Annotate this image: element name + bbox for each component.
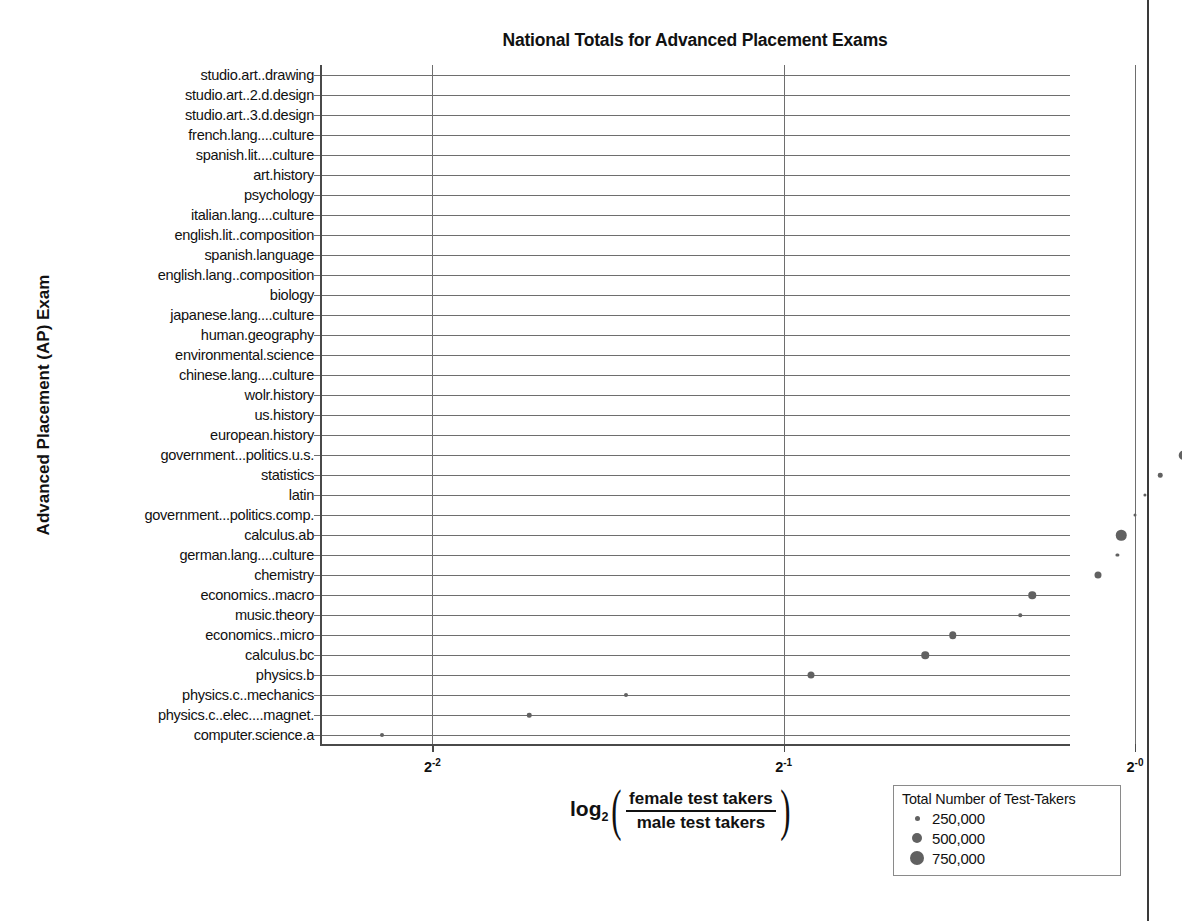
y-axis-label: government...politics.comp. xyxy=(144,507,314,523)
legend-title: Total Number of Test-Takers xyxy=(902,791,1112,807)
data-point xyxy=(922,651,930,659)
data-point xyxy=(1116,553,1119,556)
x-axis-label: 2-2 xyxy=(424,757,441,775)
y-axis-label: european.history xyxy=(210,427,314,443)
left-paren: ( xyxy=(612,788,622,834)
y-axis-label: studio.art..2.d.design xyxy=(185,87,314,103)
ap-exam-scatter-chart: National Totals for Advanced Placement E… xyxy=(0,0,1182,921)
y-axis-label: economics..macro xyxy=(200,587,314,603)
log-label: log2 xyxy=(570,797,608,824)
chart-title: National Totals for Advanced Placement E… xyxy=(320,30,1070,51)
y-axis-label: french.lang....culture xyxy=(188,127,314,143)
y-axis-label: spanish.language xyxy=(204,247,314,263)
gridline-vertical xyxy=(1135,65,1136,745)
y-axis-label: chinese.lang....culture xyxy=(179,367,314,383)
data-point xyxy=(1133,514,1136,517)
data-point xyxy=(1143,493,1146,496)
gridline-vertical xyxy=(784,65,785,745)
y-axis-label: music.theory xyxy=(235,607,314,623)
legend-entry: 750,000 xyxy=(902,848,1112,868)
y-axis-label: calculus.bc xyxy=(245,647,314,663)
legend-entry: 250,000 xyxy=(902,808,1112,828)
x-tick-mark xyxy=(784,744,785,752)
gridline-vertical xyxy=(432,65,433,745)
plot-gridlines xyxy=(320,65,1070,745)
right-paren: ) xyxy=(780,788,790,834)
legend-dot-swatch xyxy=(902,833,932,843)
y-axis-label: computer.science.a xyxy=(194,727,314,743)
data-point xyxy=(1028,591,1036,599)
y-axis-label: chemistry xyxy=(254,567,314,583)
y-axis-label: biology xyxy=(270,287,314,303)
y-axis-tick-labels: studio.art..drawingstudio.art..2.d.desig… xyxy=(0,65,314,745)
log-base: 2 xyxy=(602,811,609,825)
data-point xyxy=(1158,473,1163,478)
legend-dot-icon xyxy=(915,816,920,821)
legend-dot-swatch xyxy=(902,816,932,821)
legend-dot-icon xyxy=(912,833,922,843)
y-axis-label: spanish.lit....culture xyxy=(196,147,314,163)
legend-entries: 250,000500,000750,000 xyxy=(902,808,1112,868)
x-tick-mark xyxy=(432,744,433,752)
data-point xyxy=(380,733,384,737)
legend-dot-icon xyxy=(910,851,924,865)
data-point xyxy=(949,631,957,639)
y-axis-label: physics.b xyxy=(256,667,314,683)
legend-label: 500,000 xyxy=(932,830,985,847)
y-axis-label: art.history xyxy=(253,167,314,183)
fraction-numerator: female test takers xyxy=(626,789,776,810)
size-legend: Total Number of Test-Takers 250,000500,0… xyxy=(893,785,1121,876)
y-axis-label: japanese.lang....culture xyxy=(170,307,314,323)
legend-label: 250,000 xyxy=(932,810,985,827)
ratio-fraction: female test takers male test takers xyxy=(626,789,776,833)
data-point xyxy=(527,713,532,718)
x-tick-mark xyxy=(1135,744,1136,752)
data-point xyxy=(1095,572,1102,579)
y-axis-label: human.geography xyxy=(201,327,314,343)
y-axis-label: english.lang..composition xyxy=(158,267,314,283)
data-point xyxy=(1019,613,1023,617)
y-axis-label: economics..micro xyxy=(205,627,314,643)
y-axis-label: physics.c..elec....magnet. xyxy=(158,707,314,723)
y-axis-label: latin xyxy=(289,487,314,503)
x-axis-title: log2 ( female test takers male test take… xyxy=(570,788,870,834)
data-point xyxy=(624,693,628,697)
y-axis-label: environmental.science xyxy=(175,347,314,363)
y-axis-label: wolr.history xyxy=(245,387,314,403)
x-axis-label: 2-1 xyxy=(775,757,792,775)
plot-area xyxy=(320,65,1070,745)
y-axis-label: psychology xyxy=(244,187,314,203)
y-axis-label: us.history xyxy=(255,407,314,423)
y-axis-label: english.lit..composition xyxy=(174,227,314,243)
legend-label: 750,000 xyxy=(932,850,985,867)
y-axis-label: government...politics.u.s. xyxy=(160,447,314,463)
data-point xyxy=(1116,530,1127,541)
y-axis-label: studio.art..3.d.design xyxy=(185,107,314,123)
legend-dot-swatch xyxy=(902,851,932,865)
legend-entry: 500,000 xyxy=(902,828,1112,848)
y-axis-label: german.lang....culture xyxy=(179,547,314,563)
data-point xyxy=(808,672,815,679)
y-axis-label: studio.art..drawing xyxy=(200,67,314,83)
x-axis-label: 2-0 xyxy=(1126,757,1143,775)
y-axis-line xyxy=(320,65,322,745)
y-axis-label: statistics xyxy=(261,467,314,483)
y-axis-label: italian.lang....culture xyxy=(191,207,314,223)
y-axis-label: calculus.ab xyxy=(244,527,314,543)
fraction-denominator: male test takers xyxy=(634,812,769,833)
y-axis-label: physics.c..mechanics xyxy=(182,687,314,703)
